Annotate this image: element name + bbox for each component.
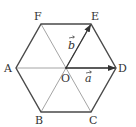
vertex-label-B: B <box>35 114 43 127</box>
vector-label-b: b <box>68 36 75 52</box>
vertex-label-D: D <box>118 62 127 75</box>
vertex-label-E: E <box>91 10 99 23</box>
vector-label-a: a <box>85 71 92 85</box>
svg-text:a: a <box>85 72 92 85</box>
svg-text:b: b <box>68 39 75 52</box>
hexagon-diagram: F E A D B C O b a <box>0 0 136 127</box>
vertex-label-C: C <box>89 114 97 127</box>
vertex-label-F: F <box>34 10 42 23</box>
vertex-label-A: A <box>3 62 13 75</box>
center-point-O <box>65 67 67 69</box>
center-label-O: O <box>61 72 70 85</box>
